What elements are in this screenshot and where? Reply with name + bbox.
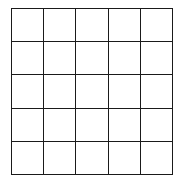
grid-cell bbox=[44, 142, 76, 175]
grid-cell bbox=[12, 109, 44, 142]
grid-cell bbox=[109, 109, 141, 142]
grid-cell bbox=[109, 42, 141, 75]
grid-cell bbox=[12, 9, 44, 42]
grid-cell bbox=[76, 109, 108, 142]
grid-cell bbox=[12, 42, 44, 75]
grid-cell bbox=[12, 75, 44, 108]
grid-cell bbox=[141, 109, 173, 142]
grid-cell bbox=[141, 75, 173, 108]
grid-cell bbox=[12, 142, 44, 175]
grid-cell bbox=[76, 142, 108, 175]
grid-cell bbox=[109, 9, 141, 42]
grid-5x5 bbox=[11, 8, 173, 175]
grid-cell bbox=[109, 75, 141, 108]
grid-cell bbox=[141, 9, 173, 42]
grid-cell bbox=[44, 9, 76, 42]
grid-cell bbox=[44, 75, 76, 108]
grid-cell bbox=[76, 42, 108, 75]
grid-cell bbox=[44, 42, 76, 75]
grid-cell bbox=[76, 75, 108, 108]
grid-cell bbox=[141, 142, 173, 175]
grid-cell bbox=[141, 42, 173, 75]
grid-cell bbox=[44, 109, 76, 142]
grid-cell bbox=[76, 9, 108, 42]
grid-cell bbox=[109, 142, 141, 175]
